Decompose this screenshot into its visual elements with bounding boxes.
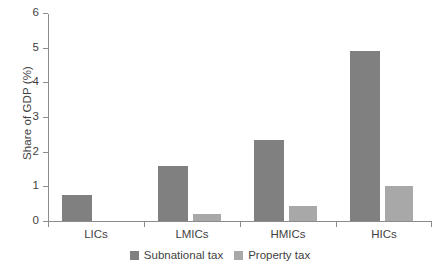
y-axis-line [48,14,49,222]
y-tick-1: 1 [43,186,48,187]
legend-item-subnational-tax[interactable]: Subnational tax [130,249,223,261]
y-tick-3: 3 [43,117,48,118]
legend-swatch-icon [130,251,139,260]
bar-chart-figure: Share of GDP (%) 0123456 LICsLMICsHMICsH… [0,0,440,272]
y-tick-label: 6 [33,6,39,19]
y-tick-label: 4 [33,75,39,88]
y-tick-4: 4 [43,82,48,83]
y-tick-label: 1 [33,179,39,192]
y-tick-label: 2 [33,145,39,158]
x-tick [48,222,49,227]
bar-hics-property-tax [385,186,413,221]
chart-legend: Subnational taxProperty tax [0,249,440,261]
plot-area: 0123456 [48,14,432,222]
bar-hmics-subnational-tax [254,140,284,221]
y-tick-5: 5 [43,48,48,49]
x-category-label-lics: LICs [84,228,108,240]
bar-hmics-property-tax [289,206,317,221]
legend-label: Subnational tax [144,249,223,261]
y-tick-6: 6 [43,13,48,14]
x-tick [336,222,337,227]
bar-lmics-subnational-tax [158,166,188,221]
bar-hics-subnational-tax [350,51,380,221]
y-axis-title: Share of GDP (%) [21,13,33,213]
x-tick [144,222,145,227]
x-tick [240,222,241,227]
legend-item-property-tax[interactable]: Property tax [234,249,310,261]
bar-lmics-property-tax [193,214,221,221]
y-tick-label: 3 [33,110,39,123]
x-tick [431,222,432,227]
y-tick-2: 2 [43,152,48,153]
y-tick-label: 5 [33,41,39,54]
legend-label: Property tax [248,249,310,261]
legend-swatch-icon [234,251,243,260]
x-category-label-lmics: LMICs [175,228,208,240]
y-tick-label: 0 [33,214,39,227]
x-category-label-hics: HICs [371,228,397,240]
bar-lics-subnational-tax [62,195,92,221]
x-category-label-hmics: HMICs [270,228,305,240]
